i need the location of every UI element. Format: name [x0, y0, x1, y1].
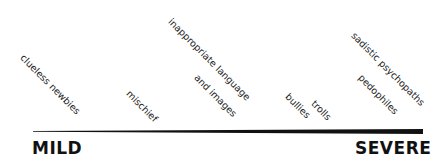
mild-label: MILD	[32, 138, 82, 158]
severe-label: SEVERE	[355, 138, 431, 158]
severity-wedge-line	[33, 129, 423, 134]
